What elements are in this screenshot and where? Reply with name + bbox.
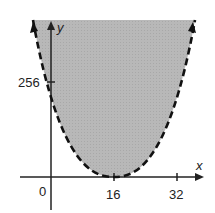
- shaded-region: [33, 20, 195, 177]
- tick-label-32: 32: [169, 187, 183, 202]
- tick-label-16: 16: [106, 187, 120, 202]
- x-axis-arrow-icon: [195, 173, 204, 181]
- tick-label-256: 256: [18, 75, 40, 90]
- x-axis-label: x: [195, 158, 203, 173]
- parabola-chart: y x 0 16 32 256: [0, 0, 215, 213]
- origin-label: 0: [39, 184, 46, 199]
